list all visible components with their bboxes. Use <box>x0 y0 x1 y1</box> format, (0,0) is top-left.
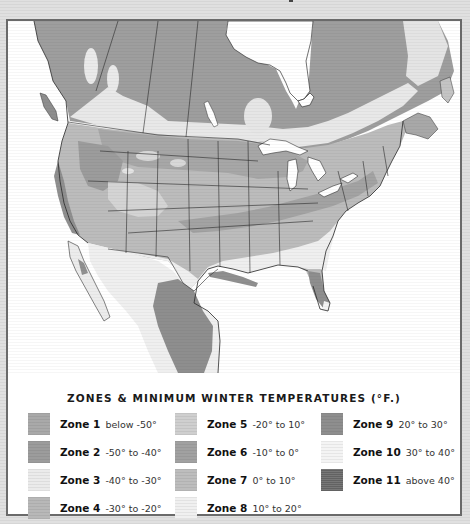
zone-label: Zone 8 <box>207 502 247 514</box>
zone-range: 10° to 20° <box>252 503 301 514</box>
legend-item-zone-6: Zone 6 -10° to 0° <box>175 441 299 463</box>
zone-6-swatch <box>175 441 197 463</box>
zone-5-swatch <box>175 413 197 435</box>
zone-label: Zone 11 <box>353 474 401 486</box>
zone-9-swatch <box>321 413 343 435</box>
zone-range: -40° to -30° <box>105 475 161 486</box>
legend-item-zone-10: Zone 10 30° to 40° <box>321 441 455 463</box>
legend-item-zone-3: Zone 3 -40° to -30° <box>28 469 162 491</box>
hardiness-map-panel: ZONES & MINIMUM WINTER TEMPERATURES (°F.… <box>6 19 462 516</box>
zone-label: Zone 2 <box>60 446 100 458</box>
zone-legend: ZONES & MINIMUM WINTER TEMPERATURES (°F.… <box>8 373 460 514</box>
legend-title: ZONES & MINIMUM WINTER TEMPERATURES (°F.… <box>8 392 460 404</box>
zone-range: above 40° <box>406 475 455 486</box>
zone-label: Zone 7 <box>207 474 247 486</box>
legend-item-zone-7: Zone 7 0° to 10° <box>175 469 296 491</box>
legend-item-zone-9: Zone 9 20° to 30° <box>321 413 448 435</box>
map-svg <box>8 21 460 373</box>
zone-range: 20° to 30° <box>398 419 447 430</box>
legend-item-zone-4: Zone 4 -30° to -20° <box>28 497 162 519</box>
zone-3-swatch <box>28 469 50 491</box>
zone-range: 0° to 10° <box>252 475 295 486</box>
zone-range: -30° to -20° <box>105 503 161 514</box>
legend-item-zone-11: Zone 11 above 40° <box>321 469 455 491</box>
zone-label: Zone 3 <box>60 474 100 486</box>
zone-4-swatch <box>28 497 50 519</box>
legend-item-zone-8: Zone 8 10° to 20° <box>175 497 302 519</box>
zone-range: -20° to 10° <box>252 419 305 430</box>
zone-label: Zone 9 <box>353 418 393 430</box>
print-texture <box>8 21 460 373</box>
zone-range: -10° to 0° <box>252 447 299 458</box>
legend-item-zone-1: Zone 1 below -50° <box>28 413 157 435</box>
zone-label: Zone 5 <box>207 418 247 430</box>
zone-2-swatch <box>28 441 50 463</box>
zone-label: Zone 6 <box>207 446 247 458</box>
zone-label: Zone 1 <box>60 418 100 430</box>
zone-1-swatch <box>28 413 50 435</box>
page-edge-mark <box>289 0 293 2</box>
zone-label: Zone 4 <box>60 502 100 514</box>
hardiness-zone-map <box>8 21 460 373</box>
zone-8-swatch <box>175 497 197 519</box>
zone-label: Zone 10 <box>353 446 401 458</box>
zone-range: -50° to -40° <box>105 447 161 458</box>
legend-item-zone-2: Zone 2 -50° to -40° <box>28 441 162 463</box>
zone-7-swatch <box>175 469 197 491</box>
zone-10-swatch <box>321 441 343 463</box>
legend-item-zone-5: Zone 5 -20° to 10° <box>175 413 305 435</box>
zone-range: 30° to 40° <box>406 447 455 458</box>
zone-11-swatch <box>321 469 343 491</box>
zone-range: below -50° <box>105 419 156 430</box>
